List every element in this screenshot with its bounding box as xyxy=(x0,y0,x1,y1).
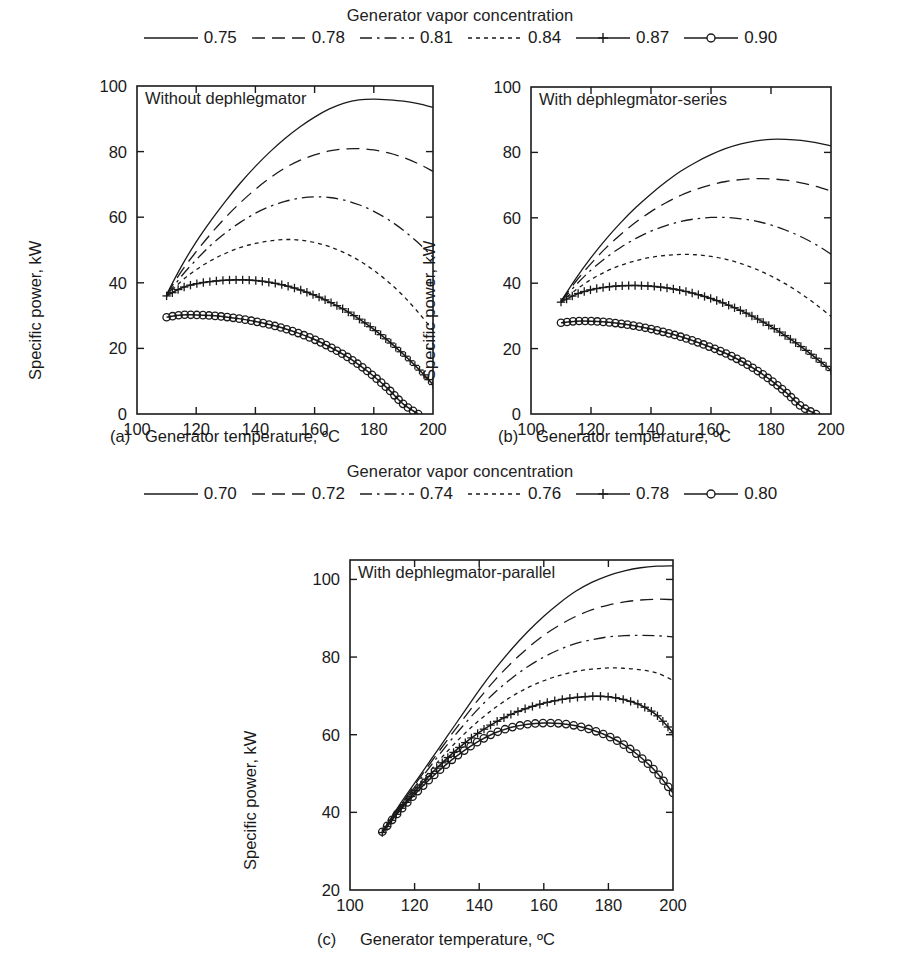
marker-plus xyxy=(199,278,207,286)
series-line xyxy=(382,599,673,832)
legend-entry-0.75: 0.75 xyxy=(143,28,237,48)
series-line xyxy=(561,179,831,302)
marker-plus xyxy=(593,284,601,292)
legend-entry-label: 0.72 xyxy=(312,484,345,504)
series-0.87 xyxy=(557,281,835,374)
y-tick-label: 100 xyxy=(99,77,127,95)
series-line xyxy=(561,139,831,301)
marker-plus xyxy=(663,284,671,292)
marker-plus xyxy=(271,279,279,287)
marker-plus xyxy=(528,702,536,710)
legend-entry-label: 0.90 xyxy=(744,28,777,48)
legend-entry-0.70: 0.70 xyxy=(143,484,237,504)
marker-plus xyxy=(589,692,597,700)
series-0.76 xyxy=(382,668,673,833)
figure-canvas: Generator vapor concentration 0.750.780.… xyxy=(0,0,905,970)
series-0.74 xyxy=(382,635,673,833)
series-line xyxy=(167,315,419,414)
legend-entry-0.81: 0.81 xyxy=(359,28,453,48)
marker-plus xyxy=(252,276,260,284)
marker-plus xyxy=(206,277,214,285)
chart-c-tag: (c) xyxy=(317,930,336,949)
legend-middle-title: Generator vapor concentration xyxy=(130,462,790,481)
legend-entry-0.76: 0.76 xyxy=(467,484,561,504)
y-tick-label: 100 xyxy=(312,570,340,588)
legend-entry-0.78: 0.78 xyxy=(251,28,345,48)
legend-line-swatch-solid xyxy=(575,30,631,46)
x-tick-label: 180 xyxy=(360,420,388,438)
series-0.80 xyxy=(379,719,677,835)
marker-plus xyxy=(669,285,677,293)
legend-top: Generator vapor concentration 0.750.780.… xyxy=(130,6,790,48)
legend-line-swatch-dotted xyxy=(467,30,523,46)
marker-plus xyxy=(290,284,298,292)
y-tick-label: 20 xyxy=(109,339,127,357)
series-line xyxy=(382,696,673,832)
x-tick-label: 100 xyxy=(336,896,364,914)
series-0.81 xyxy=(561,217,831,302)
marker-plus xyxy=(694,290,702,298)
y-tick-label: 40 xyxy=(322,803,340,821)
marker-plus xyxy=(619,695,627,703)
marker-plus xyxy=(558,695,566,703)
marker-plus xyxy=(284,282,292,290)
series-0.84 xyxy=(561,254,831,316)
series-line xyxy=(561,285,831,370)
y-tick-label: 100 xyxy=(493,78,521,96)
y-tick-label: 60 xyxy=(503,209,521,227)
marker-plus xyxy=(612,694,620,702)
y-tick-label: 80 xyxy=(503,143,521,161)
plot-frame xyxy=(531,87,831,414)
marker-plus xyxy=(278,280,286,288)
x-tick-label: 180 xyxy=(595,896,623,914)
y-tick-label: 60 xyxy=(322,726,340,744)
marker-plus xyxy=(193,279,201,287)
marker-plus xyxy=(543,698,551,706)
legend-entry-label: 0.75 xyxy=(204,28,237,48)
legend-line-swatch-solid xyxy=(143,30,199,46)
x-tick-label: 140 xyxy=(465,896,493,914)
y-tick-label: 20 xyxy=(322,881,340,899)
chart-a-xlabel: Generator temperature, ºC xyxy=(145,427,340,446)
legend-entry-label: 0.87 xyxy=(636,28,669,48)
legend-entry-label: 0.70 xyxy=(204,484,237,504)
legend-entry-0.80: 0.80 xyxy=(683,484,777,504)
legend-middle: Generator vapor concentration 0.700.720.… xyxy=(130,462,790,504)
marker-plus xyxy=(536,700,544,708)
y-tick-label: 20 xyxy=(503,340,521,358)
legend-top-title: Generator vapor concentration xyxy=(130,6,790,25)
legend-middle-entries: 0.700.720.740.760.780.80 xyxy=(130,484,790,504)
chart-c-xlabel: Generator temperature, ºC xyxy=(360,930,555,949)
marker-plus xyxy=(573,693,581,701)
y-tick-label: 0 xyxy=(118,405,127,423)
chart-b-plot: 100120140160180200020406080100With dephl… xyxy=(394,70,894,460)
series-line xyxy=(561,217,831,302)
legend-line-swatch-dashdot xyxy=(359,30,415,46)
series-0.90 xyxy=(163,311,422,418)
marker-plus xyxy=(297,286,305,294)
x-tick-label: 120 xyxy=(401,896,429,914)
legend-entry-0.90: 0.90 xyxy=(683,28,777,48)
marker-plus xyxy=(596,692,604,700)
chart-a-ylabel: Specific power, kW xyxy=(26,241,45,380)
marker-plus xyxy=(480,725,488,733)
plot-frame xyxy=(350,560,673,890)
chart-b: Specific power, kW 100120140160180200020… xyxy=(394,70,894,460)
legend-line-swatch-solid xyxy=(683,30,739,46)
chart-c: Specific power, kW 100120140160180200204… xyxy=(215,530,715,970)
marker-plus xyxy=(186,281,194,289)
marker-plus xyxy=(706,294,714,302)
x-tick-label: 180 xyxy=(757,420,785,438)
y-tick-label: 60 xyxy=(109,208,127,226)
chart-a-tag: (a) xyxy=(110,427,130,446)
series-0.75 xyxy=(561,139,831,301)
series-line xyxy=(382,668,673,833)
marker-plus xyxy=(650,282,658,290)
marker-plus xyxy=(258,277,266,285)
x-tick-label: 200 xyxy=(659,896,687,914)
marker-plus xyxy=(551,697,559,705)
legend-line-swatch-dashed xyxy=(251,30,307,46)
marker-plus xyxy=(580,287,588,295)
legend-line-swatch-solid xyxy=(575,486,631,502)
legend-entry-0.84: 0.84 xyxy=(467,28,561,48)
